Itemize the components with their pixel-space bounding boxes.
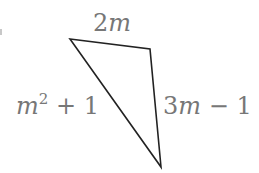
side-label-left: m2 + 1 [16,94,99,118]
side-label-left-var: m [16,92,39,120]
side-label-top-coef: 2 [93,9,108,37]
side-label-right-coef: 3 [163,92,178,120]
side-label-top-var: m [108,9,131,37]
side-label-left-exponent: 2 [39,90,49,108]
side-label-right: 3m − 1 [163,94,252,118]
side-label-top: 2m [93,11,131,35]
side-label-left-rest: + 1 [48,92,99,120]
side-label-right-var: m [178,92,201,120]
side-label-right-rest: − 1 [201,92,252,120]
